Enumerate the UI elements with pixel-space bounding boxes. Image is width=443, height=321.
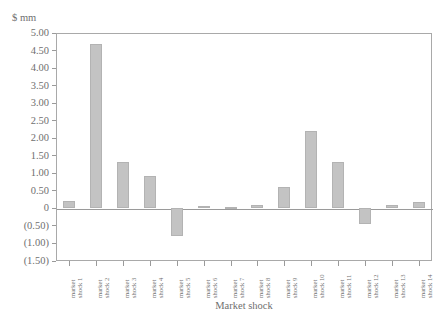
y-axis-tick-label: 1.00 <box>31 167 49 179</box>
bar <box>359 208 371 224</box>
y-axis-tick-label: 1.50 <box>31 150 49 162</box>
y-axis-tick: 5.00 <box>31 27 56 39</box>
x-axis-label-line1: market <box>365 262 372 298</box>
y-axis-title: $ mm <box>12 12 36 23</box>
y-axis-ticks: 5.004.504.003.503.002.502.001.501.000.50… <box>0 33 56 261</box>
bar <box>117 162 129 208</box>
y-axis-tick: 0.50 <box>31 185 56 197</box>
y-axis-tick-label: 2.00 <box>31 132 49 144</box>
y-axis-tick: 3.50 <box>31 80 56 92</box>
x-axis-labels: marketshock 1marketshock 2marketshock 3m… <box>56 264 432 300</box>
bars-layer <box>56 33 432 261</box>
x-axis-label-line1: market <box>419 262 426 298</box>
y-axis-tick-label: 4.00 <box>31 62 49 74</box>
y-axis-tick-label: 0 <box>44 202 49 214</box>
bar <box>251 205 263 209</box>
x-axis-label-line1: market <box>204 262 211 298</box>
y-axis-tick-label: 3.00 <box>31 97 49 109</box>
bar <box>305 131 317 209</box>
y-axis-tick: 4.00 <box>31 62 56 74</box>
x-axis-label-line1: market <box>392 262 399 298</box>
x-axis-label-line1: market <box>338 262 345 298</box>
y-axis-tick: (1.00) <box>24 237 56 249</box>
x-axis-title: Market shock <box>56 300 432 311</box>
bar-chart: $ mm 5.004.504.003.503.002.502.001.501.0… <box>0 0 443 321</box>
y-axis-tick-label: (1.00) <box>24 237 49 249</box>
x-axis-label-line1: market <box>231 262 238 298</box>
bar <box>413 202 425 208</box>
y-axis-tick: 2.50 <box>31 115 56 127</box>
bar <box>225 207 237 209</box>
y-axis-tick-label: 5.00 <box>31 27 49 39</box>
bar <box>90 44 102 209</box>
y-axis-tick: 3.00 <box>31 97 56 109</box>
bar <box>171 208 183 236</box>
y-axis-tick-label: (1.50) <box>24 255 49 267</box>
y-axis-tick: 1.50 <box>31 150 56 162</box>
y-axis-tick-label: 3.50 <box>31 80 49 92</box>
bar <box>198 206 210 209</box>
clipped-header-text <box>0 0 443 6</box>
y-axis-tick: 4.50 <box>31 45 56 57</box>
y-axis-tick-label: 2.50 <box>31 115 49 127</box>
x-axis-label-line1: market <box>150 262 157 298</box>
x-axis-label-line2: shock 14 <box>426 262 433 298</box>
y-axis-tick: 0 <box>44 202 56 214</box>
bar <box>63 201 75 209</box>
bar <box>278 187 290 208</box>
y-axis-tick-label: 4.50 <box>31 45 49 57</box>
y-axis-tick: (0.50) <box>24 220 56 232</box>
y-axis-tick-label: 0.50 <box>31 185 49 197</box>
x-axis-tick-label: marketshock 14 <box>401 264 437 300</box>
x-axis-label-line1: market <box>177 262 184 298</box>
bar <box>332 162 344 208</box>
y-axis-tick-label: (0.50) <box>24 220 49 232</box>
y-axis-tick: 2.00 <box>31 132 56 144</box>
y-axis-tick: 1.00 <box>31 167 56 179</box>
bar <box>386 205 398 209</box>
bar <box>144 176 156 208</box>
